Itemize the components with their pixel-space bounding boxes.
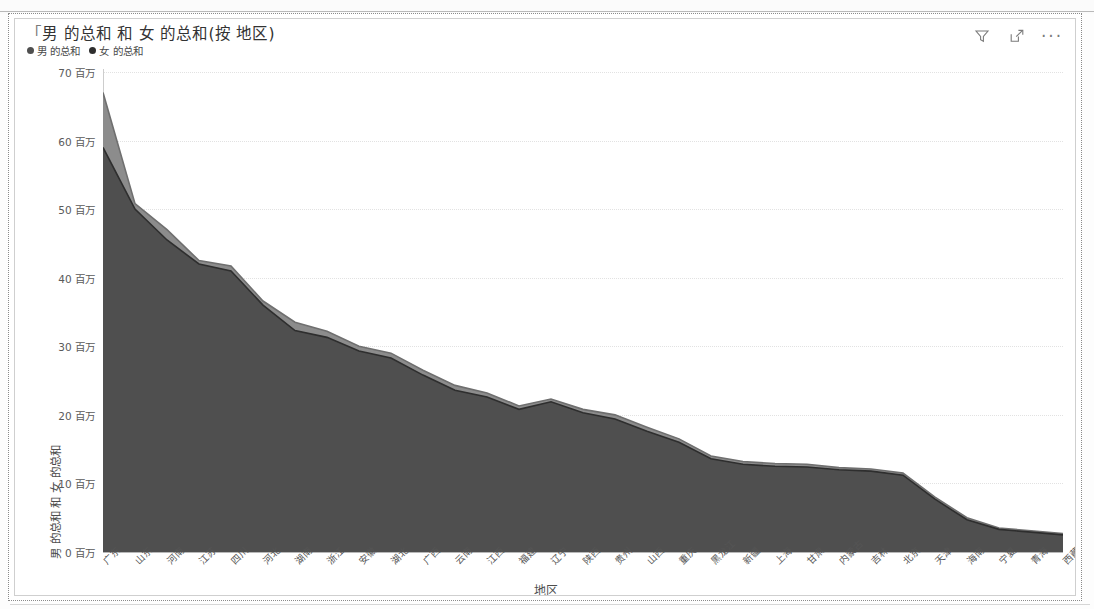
y-tick-label: 40 百万 xyxy=(33,271,95,286)
cutoff-divider xyxy=(0,11,1094,12)
cutoff-row-below xyxy=(0,602,1094,609)
screenshot-root: 「男 的总和 和 女 的总和(按 地区) 男 的总和 女 的总和 xyxy=(0,0,1094,609)
bottom-divider xyxy=(10,604,1090,605)
y-tick-label: 30 百万 xyxy=(33,339,95,354)
y-tick-label: 70 百万 xyxy=(33,65,95,80)
x-axis-title: 地区 xyxy=(15,581,1076,596)
area-series-male[interactable] xyxy=(103,147,1063,552)
plot-area: 男 的总和 和 女 的总和 0 百万10 百万20 百万30 百万40 百万50… xyxy=(15,19,1076,596)
powerbi-visual-container[interactable]: 「男 的总和 和 女 的总和(按 地区) 男 的总和 女 的总和 xyxy=(8,13,1082,601)
cutoff-row-above xyxy=(0,0,1094,14)
y-tick-label: 10 百万 xyxy=(33,476,95,491)
y-tick-label: 50 百万 xyxy=(33,202,95,217)
y-tick-label: 20 百万 xyxy=(33,408,95,423)
visual-inner: 「男 的总和 和 女 的总和(按 地区) 男 的总和 女 的总和 xyxy=(14,18,1076,596)
y-axis-ticks: 0 百万10 百万20 百万30 百万40 百万50 百万60 百万70 百万 xyxy=(33,19,95,596)
y-tick-label: 0 百万 xyxy=(33,545,95,560)
area-series-svg[interactable] xyxy=(103,69,1063,553)
y-tick-label: 60 百万 xyxy=(33,134,95,149)
